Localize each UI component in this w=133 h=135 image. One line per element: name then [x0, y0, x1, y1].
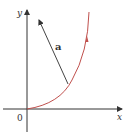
vector-a [39, 20, 68, 84]
vector-a-label: a [55, 41, 62, 52]
y-axis-label: y [16, 8, 23, 18]
curve [27, 12, 89, 109]
x-axis-label: x [117, 112, 122, 122]
diagram-canvas: y x 0 a [0, 0, 133, 135]
origin-label: 0 [17, 113, 23, 123]
